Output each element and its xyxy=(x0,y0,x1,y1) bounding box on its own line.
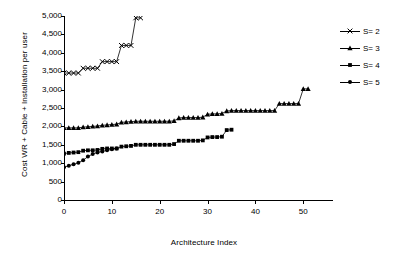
series-line xyxy=(64,89,308,128)
x-tick-label: 30 xyxy=(196,208,220,216)
x-tick-mark xyxy=(208,201,209,204)
series-2 xyxy=(64,86,311,130)
y-tick-mark xyxy=(61,163,64,164)
plot-area xyxy=(64,16,332,200)
legend-label: S= 3 xyxy=(363,44,380,53)
y-tick-mark xyxy=(61,126,64,127)
data-point-square xyxy=(72,151,76,155)
data-point-circle xyxy=(91,152,95,156)
data-point-square xyxy=(64,152,66,156)
legend-item-4[interactable]: S= 5 xyxy=(340,75,404,89)
data-point-circle xyxy=(348,80,352,84)
data-point-circle xyxy=(81,158,85,162)
data-point-square xyxy=(187,139,191,143)
x-tick-label: 10 xyxy=(100,208,124,216)
data-point-square xyxy=(163,143,167,147)
data-point-circle xyxy=(86,155,90,159)
x-tick-label: 20 xyxy=(148,208,172,216)
data-point-square xyxy=(143,143,147,147)
data-point-square xyxy=(158,143,162,147)
legend-label: S= 5 xyxy=(363,78,380,87)
data-point-square xyxy=(167,143,171,147)
y-tick-mark xyxy=(61,16,64,17)
x-tick-mark xyxy=(160,201,161,204)
legend-marker-x-cross-icon xyxy=(340,26,360,36)
chart-container: Cost WR + Cable + Installation per user … xyxy=(0,0,408,270)
y-tick-mark xyxy=(61,90,64,91)
y-tick-mark xyxy=(61,34,64,35)
legend-item-3[interactable]: S= 4 xyxy=(340,58,404,72)
legend-marker-square-icon xyxy=(340,60,360,70)
series-line xyxy=(64,18,141,73)
data-point-circle xyxy=(110,147,114,151)
data-point-x-cross xyxy=(348,29,353,34)
y-tick-mark xyxy=(61,145,64,146)
series-3 xyxy=(64,128,233,156)
x-tick-mark xyxy=(303,201,304,204)
data-point-square xyxy=(220,135,224,139)
x-tick-label: 50 xyxy=(291,208,315,216)
data-point-square xyxy=(120,145,124,149)
data-point-triangle xyxy=(347,45,352,50)
data-point-square xyxy=(86,148,90,152)
data-point-circle xyxy=(100,149,104,153)
data-point-square xyxy=(129,144,133,148)
legend-label: S= 2 xyxy=(363,27,380,36)
data-point-square xyxy=(134,143,138,147)
data-point-square xyxy=(230,128,234,132)
y-tick-mark xyxy=(61,182,64,183)
data-point-circle xyxy=(115,146,119,150)
data-point-circle xyxy=(67,164,71,168)
data-point-square xyxy=(201,138,205,142)
data-point-square xyxy=(177,139,181,143)
y-tick-mark xyxy=(61,53,64,54)
data-point-circle xyxy=(76,161,80,165)
data-point-square xyxy=(206,136,210,140)
data-point-square xyxy=(148,143,152,147)
data-point-square xyxy=(196,139,200,143)
x-tick-mark xyxy=(64,201,65,204)
data-point-square xyxy=(191,139,195,143)
y-tick-mark xyxy=(61,108,64,109)
chart-legend: S= 2S= 3S= 4S= 5 xyxy=(340,24,404,92)
data-point-square xyxy=(210,135,214,139)
data-point-square xyxy=(172,142,176,146)
legend-marker-circle-icon xyxy=(340,77,360,87)
data-point-square xyxy=(215,135,219,139)
x-tick-label: 0 xyxy=(52,208,76,216)
legend-item-2[interactable]: S= 3 xyxy=(340,41,404,55)
x-axis-line xyxy=(64,200,333,201)
x-tick-mark xyxy=(112,201,113,204)
data-point-square xyxy=(153,143,157,147)
data-point-circle xyxy=(96,151,100,155)
data-point-square xyxy=(124,144,128,148)
data-point-square xyxy=(139,143,143,147)
data-point-square xyxy=(81,149,85,153)
y-tick-mark xyxy=(61,71,64,72)
data-point-square xyxy=(91,148,95,152)
data-point-circle xyxy=(105,148,109,152)
legend-item-1[interactable]: S= 2 xyxy=(340,24,404,38)
legend-label: S= 4 xyxy=(363,61,380,70)
data-point-square xyxy=(76,150,80,154)
series-1 xyxy=(64,16,143,75)
data-point-circle xyxy=(64,165,66,169)
legend-marker-triangle-icon xyxy=(340,43,360,53)
series-canvas xyxy=(64,16,332,200)
x-tick-label: 40 xyxy=(243,208,267,216)
x-tick-mark xyxy=(255,201,256,204)
data-point-square xyxy=(348,63,352,67)
data-point-square xyxy=(67,151,71,155)
data-point-square xyxy=(182,139,186,143)
data-point-square xyxy=(225,128,229,132)
data-point-circle xyxy=(72,162,76,166)
